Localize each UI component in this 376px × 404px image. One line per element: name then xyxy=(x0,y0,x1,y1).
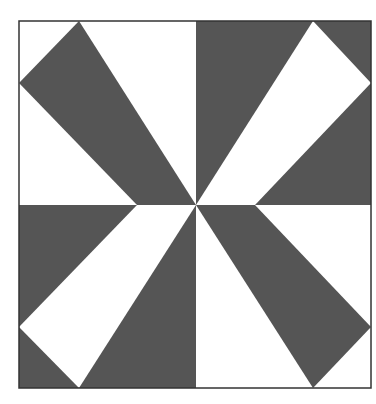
quilt-block-diagram xyxy=(0,0,376,404)
